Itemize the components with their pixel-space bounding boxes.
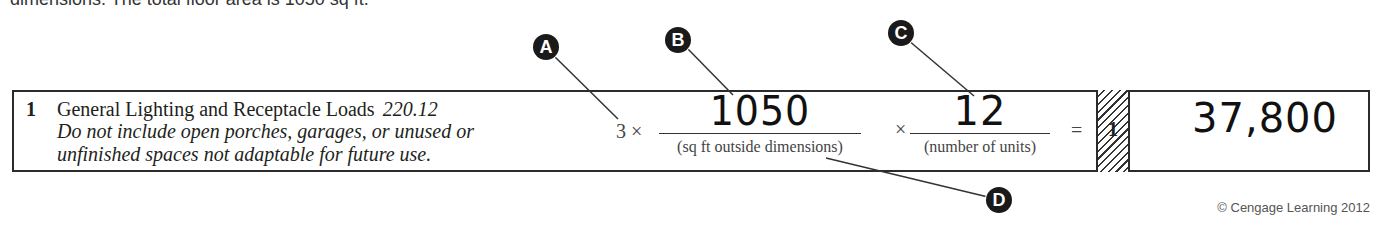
result-line-ref: 1	[1096, 118, 1130, 141]
line-number: 1	[26, 98, 36, 121]
row-title-text: General Lighting and Receptacle Loads	[57, 98, 375, 120]
sq-ft-label: (sq ft outside dimensions)	[659, 138, 861, 156]
callout-d-icon: D	[986, 187, 1012, 213]
callout-c-icon: C	[888, 20, 914, 46]
row-note: Do not include open porches, garages, or…	[57, 120, 537, 166]
header-text-fragment: dimensions. The total floor area is 1050…	[10, 0, 369, 10]
sq-ft-underline	[659, 133, 861, 134]
code-reference: 220.12	[383, 98, 438, 120]
callout-a-icon: A	[533, 34, 559, 60]
copyright-notice: © Cengage Learning 2012	[1200, 200, 1370, 215]
sq-ft-value[interactable]: 1050	[703, 88, 817, 134]
units-underline	[910, 133, 1050, 134]
multiplier-3va: 3 ×	[616, 120, 642, 143]
units-label: (number of units)	[905, 138, 1055, 156]
result-value[interactable]: 37,800	[1185, 95, 1345, 141]
callout-b-icon: B	[665, 27, 691, 53]
row-title: General Lighting and Receptacle Loads220…	[57, 98, 438, 121]
units-value[interactable]: 12	[935, 88, 1025, 134]
equals-symbol: =	[1071, 119, 1082, 142]
